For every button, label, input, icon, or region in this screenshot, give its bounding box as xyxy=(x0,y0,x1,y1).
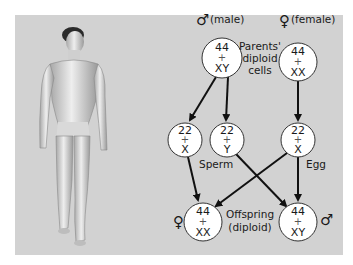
sperm-x-cell: 22 + X xyxy=(168,123,202,157)
male-human-figure-icon xyxy=(40,27,107,246)
male-parent-label: ♂ (male) xyxy=(196,11,244,29)
svg-text:X: X xyxy=(294,143,302,156)
male-offspring-cell: 44 + XY xyxy=(279,203,317,241)
arrow-male-to-sperm-y xyxy=(226,77,228,120)
svg-text:Y: Y xyxy=(223,143,231,156)
male-symbol-icon: ♂ xyxy=(196,11,209,29)
female-parent-label: ♀ (female) xyxy=(279,12,335,30)
svg-text:Parents': Parents' xyxy=(239,40,281,52)
svg-text:cells: cells xyxy=(248,64,272,76)
egg-label: Egg xyxy=(306,158,326,170)
svg-text:XX: XX xyxy=(290,66,306,79)
parents-caption: Parents' diploid cells xyxy=(239,40,281,76)
arrow-male-to-sperm-x xyxy=(190,77,216,120)
arrow-sperm-x-to-female-offspring xyxy=(188,157,198,200)
offspring-caption: Offspring (diploid) xyxy=(226,208,274,233)
female-offspring-cell: 44 + XX xyxy=(184,203,222,241)
svg-text:(diploid): (diploid) xyxy=(228,221,271,233)
male-parent-cell: 44 + XY xyxy=(202,38,242,78)
sperm-y-cell: 22 + Y xyxy=(210,123,244,157)
male-offspring-symbol-icon: ♂ xyxy=(320,211,333,229)
svg-text:diploid: diploid xyxy=(242,52,277,64)
female-symbol-icon: ♀ xyxy=(279,12,290,30)
female-parent-cell: 44 + XX xyxy=(279,43,317,81)
svg-text:(male): (male) xyxy=(210,13,244,25)
svg-text:(female): (female) xyxy=(291,13,335,25)
female-offspring-symbol-icon: ♀ xyxy=(173,213,184,231)
sex-determination-diagram: ♂ (male) ♀ (female) 44 + XY 44 + XX Pare… xyxy=(0,0,353,265)
arrow-sperm-y-to-male-offspring xyxy=(236,154,286,206)
svg-text:XY: XY xyxy=(291,226,306,239)
svg-text:XX: XX xyxy=(195,226,211,239)
svg-text:X: X xyxy=(181,143,189,156)
egg-cell: 22 + X xyxy=(281,123,315,157)
svg-text:XY: XY xyxy=(215,62,230,75)
svg-text:Offspring: Offspring xyxy=(226,208,274,220)
sperm-label: Sperm xyxy=(199,158,233,170)
